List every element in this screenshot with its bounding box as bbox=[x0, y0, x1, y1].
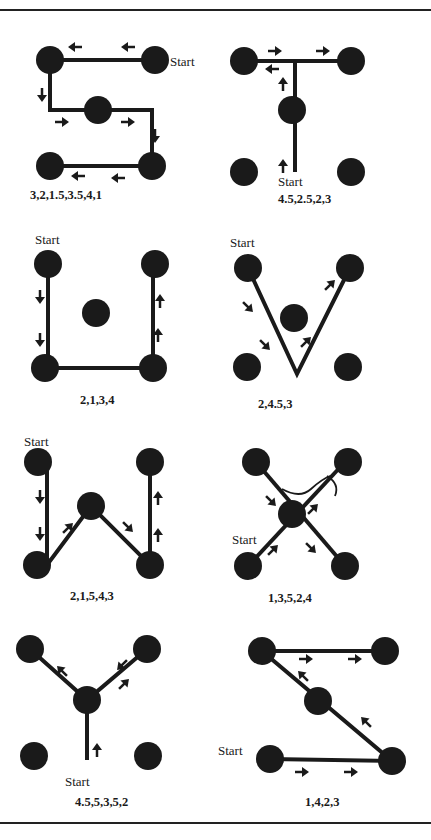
dot bbox=[84, 96, 112, 124]
dot bbox=[280, 304, 308, 332]
dot bbox=[138, 152, 166, 180]
start-label: Start bbox=[232, 532, 257, 547]
sequence-label: 1,3,5,2,4 bbox=[268, 591, 313, 605]
arrow-down-right-icon bbox=[263, 493, 280, 510]
arrow-left-icon bbox=[121, 42, 135, 52]
panel-w: Start2,1,5,4,3 bbox=[23, 434, 164, 603]
start-label: Start bbox=[278, 174, 303, 189]
start-label: Start bbox=[230, 235, 255, 250]
dot bbox=[331, 552, 359, 580]
dot bbox=[234, 552, 262, 580]
sequence-label: 3,2,1.5,3.5,4,1 bbox=[30, 188, 102, 202]
arrow-up-icon bbox=[155, 294, 165, 308]
arrow-up-icon bbox=[278, 77, 288, 91]
dot bbox=[378, 747, 406, 775]
dot bbox=[31, 354, 59, 382]
arrow-left-icon bbox=[68, 42, 82, 52]
arrow-right-icon bbox=[268, 46, 282, 56]
dot bbox=[248, 637, 276, 665]
panel-z: Start1,4,2,3 bbox=[218, 637, 406, 809]
gesture-diagram: Start3,2,1.5,3.5,4,1Start4.5,2.5,2,3Star… bbox=[0, 0, 431, 840]
arrow-right-icon bbox=[121, 117, 135, 127]
panel-u: Start2,1,3,4 bbox=[31, 232, 169, 407]
arrow-left-icon bbox=[265, 64, 279, 74]
dot bbox=[334, 353, 362, 381]
arrow-right-icon bbox=[348, 654, 362, 664]
start-label: Start bbox=[24, 434, 49, 449]
dot bbox=[371, 637, 399, 665]
sequence-label: 2,1,5,4,3 bbox=[70, 589, 114, 603]
arrow-down-right-icon bbox=[120, 519, 137, 536]
arrow-down-icon bbox=[35, 333, 45, 347]
dot bbox=[256, 745, 284, 773]
sequence-label: 2,1,3,4 bbox=[80, 393, 115, 407]
start-label: Start bbox=[218, 743, 243, 758]
dot bbox=[23, 551, 51, 579]
dot bbox=[230, 158, 258, 186]
dot bbox=[133, 635, 161, 663]
arrow-right-icon bbox=[344, 767, 358, 777]
arrow-up-right-icon bbox=[322, 277, 339, 294]
arrow-left-icon bbox=[71, 171, 85, 181]
arrow-down-right-icon bbox=[240, 299, 257, 316]
sequence-label: 2,4.5,3 bbox=[258, 397, 292, 411]
dot bbox=[136, 448, 164, 476]
dot bbox=[36, 46, 64, 74]
arrow-down-icon bbox=[35, 290, 45, 304]
arrow-down-right-icon bbox=[257, 337, 274, 354]
panel-x: Start1,3,5,2,4 bbox=[232, 448, 362, 605]
dot bbox=[24, 448, 52, 476]
arrow-up-icon bbox=[153, 528, 163, 542]
arrow-right-icon bbox=[55, 117, 69, 127]
panel-s: Start3,2,1.5,3.5,4,1 bbox=[30, 42, 195, 202]
arrow-up-icon bbox=[92, 743, 102, 757]
dot bbox=[141, 250, 169, 278]
dot bbox=[36, 152, 64, 180]
dot bbox=[234, 254, 262, 282]
arrow-up-left-icon bbox=[358, 714, 375, 731]
arrow-left-icon bbox=[111, 173, 125, 183]
dot bbox=[16, 635, 44, 663]
arrow-up-icon bbox=[153, 491, 163, 505]
panel-v: Start2,4.5,3 bbox=[230, 235, 364, 411]
dot bbox=[134, 742, 162, 770]
sequence-label: 4.5,2.5,2,3 bbox=[278, 192, 331, 206]
dot bbox=[337, 158, 365, 186]
arrow-right-icon bbox=[299, 654, 313, 664]
arrow-right-icon bbox=[295, 767, 309, 777]
start-label: Start bbox=[35, 232, 60, 247]
dot bbox=[278, 96, 306, 124]
arrow-up-icon bbox=[278, 159, 288, 173]
start-label: Start bbox=[65, 774, 90, 789]
arrow-down-icon bbox=[37, 88, 47, 102]
arrow-right-icon bbox=[316, 46, 330, 56]
dot bbox=[230, 47, 258, 75]
panel-y: Start4.5,5,3,5,2 bbox=[16, 635, 162, 809]
sequence-label: 1,4,2,3 bbox=[305, 795, 339, 809]
arrow-down-icon bbox=[35, 490, 45, 504]
dot bbox=[233, 353, 261, 381]
dot bbox=[336, 254, 364, 282]
sequence-label: 4.5,5,3,5,2 bbox=[75, 795, 128, 809]
start-label: Start bbox=[170, 54, 195, 69]
dot bbox=[139, 354, 167, 382]
dot bbox=[34, 250, 62, 278]
dot bbox=[73, 686, 101, 714]
dot bbox=[334, 448, 362, 476]
dot bbox=[278, 500, 306, 528]
dot bbox=[82, 299, 110, 327]
dot bbox=[20, 742, 48, 770]
arrow-down-right-icon bbox=[303, 540, 320, 557]
dot bbox=[337, 47, 365, 75]
dot bbox=[136, 551, 164, 579]
panel-t: Start4.5,2.5,2,3 bbox=[230, 46, 365, 206]
arrow-down-icon bbox=[35, 527, 45, 541]
dot bbox=[242, 448, 270, 476]
dot bbox=[141, 46, 169, 74]
dot bbox=[77, 492, 105, 520]
dot bbox=[304, 687, 332, 715]
arrow-up-right-icon bbox=[116, 676, 133, 693]
